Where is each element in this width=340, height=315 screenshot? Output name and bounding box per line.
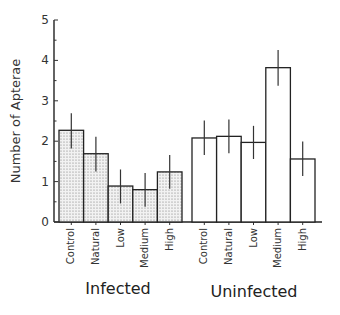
category-labels: ControlNaturalLowMediumHighControlNatura…: [65, 228, 307, 268]
y-tick-label: 5: [41, 13, 49, 27]
bar-chart: 012345 ControlNaturalLowMediumHighContro…: [0, 0, 340, 315]
x-category-label: Control: [65, 228, 76, 264]
y-tick-label: 0: [41, 215, 49, 229]
bar-uninfected-medium: [266, 68, 291, 222]
x-category-label: High: [164, 228, 175, 251]
x-category-label: Medium: [272, 228, 283, 268]
y-tick-label: 4: [41, 53, 49, 67]
x-category-label: Low: [248, 228, 259, 248]
x-category-label: Natural: [223, 228, 234, 265]
bars: [59, 68, 315, 222]
x-category-label: High: [297, 228, 308, 251]
y-tick-label: 1: [41, 175, 49, 189]
group-label-uninfected: Uninfected: [211, 282, 298, 301]
x-category-label: Natural: [90, 228, 101, 265]
x-category-label: Control: [198, 228, 209, 264]
group-label-infected: Infected: [85, 279, 150, 298]
y-tick-label: 3: [41, 94, 49, 108]
x-category-label: Medium: [139, 228, 150, 268]
y-tick-label: 2: [41, 134, 49, 148]
x-category-label: Low: [115, 228, 126, 248]
y-axis-label: Number of Apterae: [8, 59, 23, 184]
